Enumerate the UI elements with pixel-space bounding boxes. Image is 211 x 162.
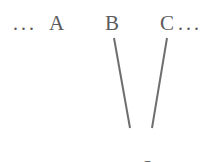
trace-node-label: <t2>	[126, 157, 164, 162]
edge-b-to-trace	[114, 38, 130, 128]
trace-node: <t2>	[0, 132, 211, 162]
syntax-tree-figure: ... A B C ... <t2>	[0, 0, 211, 162]
edge-c-to-trace	[152, 38, 167, 128]
